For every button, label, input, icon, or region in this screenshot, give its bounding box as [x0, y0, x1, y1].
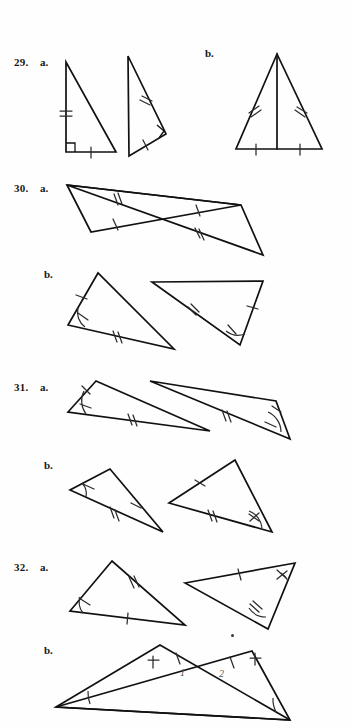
figure-31b-triangle-left	[70, 469, 163, 532]
figure-31a-triangle-right	[150, 381, 290, 439]
figure-31a-triangle-left	[68, 381, 210, 431]
figure-32a-triangle-right	[185, 563, 295, 629]
figure-29a-triangle-right	[128, 56, 166, 156]
problem-31-part-b-label: b.	[44, 459, 53, 471]
ink-speck	[231, 634, 234, 637]
textbook-page: 29. a. b. 30. a. b. 31. a. b. 32. a. b.	[0, 0, 351, 727]
figure-31b-triangle-right	[169, 460, 272, 532]
problem-30-part-a-label: a.	[40, 182, 48, 194]
figures-layer	[0, 0, 351, 727]
figure-30b-triangle-left	[68, 273, 174, 349]
figure-29a-triangle-left	[60, 62, 116, 158]
problem-29-part-b-label: b.	[205, 47, 214, 59]
problem-29-part-a-label: a.	[40, 56, 48, 68]
problem-31-part-a-label: a.	[40, 381, 48, 393]
problem-30-part-b-label: b.	[44, 268, 53, 280]
problem-32-part-b-label: b.	[44, 644, 53, 656]
figure-32b-overlapping-triangles	[56, 645, 290, 720]
figure-30b-triangle-right	[152, 281, 263, 345]
figure-29b-isosceles-triangle	[236, 54, 322, 155]
problem-number-31: 31.	[14, 381, 29, 393]
figure-30a-bowtie	[67, 185, 263, 255]
angle-label-2: 2	[219, 668, 224, 679]
angle-label-1: 1	[180, 667, 185, 678]
problem-number-30: 30.	[14, 182, 29, 194]
figure-32a-triangle-left	[70, 561, 185, 625]
problem-32-part-a-label: a.	[40, 561, 48, 573]
problem-number-32: 32.	[14, 561, 29, 573]
problem-number-29: 29.	[14, 56, 29, 68]
